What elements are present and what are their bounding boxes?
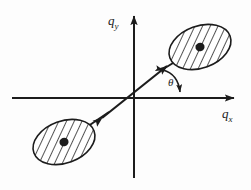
x-axis-label-subscript: x xyxy=(229,114,233,124)
angle-theta-label: θ xyxy=(168,77,173,88)
y-axis-label-subscript: y xyxy=(115,21,119,31)
upper-right-lobe xyxy=(163,16,238,77)
x-axis-label: qx xyxy=(222,107,233,124)
lower-left-lobe xyxy=(27,111,102,172)
diagram-svg xyxy=(0,0,251,190)
figure-canvas: qy qx θ xyxy=(0,0,251,190)
y-axis-label: qy xyxy=(108,14,119,31)
